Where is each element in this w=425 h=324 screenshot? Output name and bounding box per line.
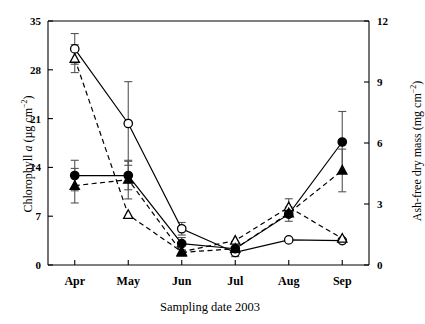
y-left-title-pre: Chlorophyll (21, 152, 35, 213)
x-tick-label: Jun (172, 274, 192, 288)
y-left-title-end: ) (21, 95, 35, 99)
y-right-title-pre: Ash-free dry mass (mg cm (410, 93, 424, 221)
data-point-open-circle (71, 45, 79, 53)
y-left-title-post: (µg cm (21, 108, 35, 146)
y-left-tick-label: 35 (30, 15, 42, 27)
y-right-tick-label: 0 (377, 259, 383, 271)
x-tick-label: Jul (227, 274, 244, 288)
y-left-title-ital: a (21, 146, 35, 152)
y-right-tick-label: 3 (377, 198, 383, 210)
y-left-title-sup: −2 (20, 99, 29, 108)
y-right-tick-label: 6 (377, 137, 383, 149)
y-left-tick-label: 0 (36, 259, 42, 271)
y-right-tick-label: 12 (377, 15, 389, 27)
x-tick-label: Sep (333, 274, 352, 288)
y-left-tick-label: 7 (36, 210, 42, 222)
data-point-open-circle (178, 225, 186, 233)
data-point-filled-circle (338, 138, 346, 146)
y-axis-right-title: Ash-free dry mass (mg cm−2) (407, 41, 425, 261)
x-tick-label: May (117, 274, 140, 288)
y-right-tick-label: 9 (377, 76, 383, 88)
y-right-title-sup: −2 (409, 85, 418, 94)
x-tick-label: Apr (64, 274, 85, 288)
data-point-filled-circle (71, 171, 79, 179)
y-axis-left-title: Chlorophyll a (µg cm−2) (18, 64, 36, 244)
y-right-title-end: ) (410, 81, 424, 85)
x-axis-title: Sampling date 2003 (55, 297, 365, 315)
data-point-open-circle (124, 119, 132, 127)
data-point-open-circle (285, 236, 293, 244)
x-tick-label: Aug (278, 274, 299, 288)
